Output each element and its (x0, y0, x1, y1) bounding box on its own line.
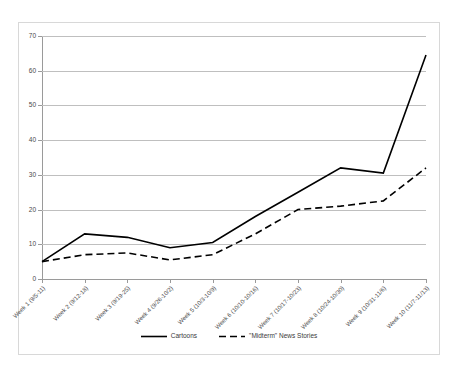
x-axis-tick-label: Week 6 (10/10-10/16) (214, 285, 259, 330)
x-axis-tick-mark (298, 279, 299, 283)
x-axis-tick-mark (426, 279, 427, 283)
y-axis-tick-label: 40 (29, 137, 36, 144)
x-axis-tick-mark (42, 279, 43, 283)
x-axis-tick-mark (213, 279, 214, 283)
x-axis-tick-label: Week 4 (9/26-10/2) (134, 285, 174, 325)
legend-label: Cartoons (171, 333, 197, 340)
legend-entry: "Midterm" News Stories (219, 333, 317, 340)
x-axis-tick-mark (383, 279, 384, 283)
legend-label: "Midterm" News Stories (249, 333, 317, 340)
grid-line (42, 279, 426, 280)
chart-figure: 010203040506070 Week 1 (9/5-11)Week 2 (9… (18, 22, 440, 355)
x-axis-tick-mark (255, 279, 256, 283)
x-axis-tick-label: Week 1 (9/5-11) (12, 285, 46, 319)
y-axis-tick-label: 10 (29, 241, 36, 248)
y-axis-tick-label: 50 (29, 102, 36, 109)
chart-legend: Cartoons"Midterm" News Stories (19, 333, 439, 340)
x-axis-tick-label: Week 5 (10/3-10/9) (176, 285, 216, 325)
x-axis-tick-label: Week 9 (10/31-11/6) (345, 285, 388, 328)
plot-area: 010203040506070 Week 1 (9/5-11)Week 2 (9… (42, 36, 426, 279)
x-axis-tick-label: Week 10 (11/7-11/13) (386, 285, 431, 330)
legend-swatch (219, 333, 245, 340)
x-axis-tick-mark (341, 279, 342, 283)
x-axis-tick-label: Week 7 (10/17-10/23) (257, 285, 302, 330)
legend-entry: Cartoons (141, 333, 197, 340)
y-axis-tick-label: 60 (29, 67, 36, 74)
series-lines (42, 36, 426, 279)
y-axis-tick-label: 30 (29, 172, 36, 179)
y-axis-tick-label: 0 (32, 276, 36, 283)
x-axis-tick-label: Week 8 (10/24-10/30) (300, 285, 345, 330)
x-axis-tick-mark (127, 279, 128, 283)
x-axis-tick-label: Week 3 (9/19-25) (95, 285, 132, 322)
x-axis-tick-label: Week 2 (9/12-18) (52, 285, 89, 322)
x-axis-tick-mark (85, 279, 86, 283)
series-line (42, 55, 426, 262)
y-axis-tick-label: 20 (29, 206, 36, 213)
legend-swatch (141, 333, 167, 340)
x-axis-tick-mark (170, 279, 171, 283)
y-axis-tick-label: 70 (29, 33, 36, 40)
series-line (42, 168, 426, 262)
